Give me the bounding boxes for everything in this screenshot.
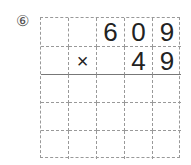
digit-cell: 9: [153, 18, 181, 47]
grid-cell: [97, 47, 125, 75]
answer-cell[interactable]: [41, 103, 69, 131]
answer-cell[interactable]: [125, 103, 153, 131]
multiply-sign: ×: [69, 47, 97, 75]
answer-cell[interactable]: [41, 75, 69, 103]
answer-cell[interactable]: [153, 131, 181, 159]
digit-cell: 4: [125, 47, 153, 75]
answer-cell[interactable]: [153, 103, 181, 131]
problem-number-label: ⑥: [14, 14, 30, 30]
answer-cell[interactable]: [97, 75, 125, 103]
grid-cell: [41, 47, 69, 75]
answer-cell[interactable]: [41, 131, 69, 159]
answer-cell[interactable]: [69, 103, 97, 131]
answer-cell[interactable]: [153, 75, 181, 103]
answer-cell[interactable]: [97, 103, 125, 131]
answer-cell[interactable]: [69, 131, 97, 159]
answer-cell[interactable]: [69, 75, 97, 103]
grid-cell: [69, 18, 97, 47]
answer-cell[interactable]: [97, 131, 125, 159]
answer-cell[interactable]: [125, 75, 153, 103]
multiplication-grid: 6 0 9 × 4 9: [40, 17, 180, 158]
digit-cell: 0: [125, 18, 153, 47]
answer-cell[interactable]: [125, 131, 153, 159]
digit-cell: 6: [97, 18, 125, 47]
grid-cell: [41, 18, 69, 47]
digit-cell: 9: [153, 47, 181, 75]
